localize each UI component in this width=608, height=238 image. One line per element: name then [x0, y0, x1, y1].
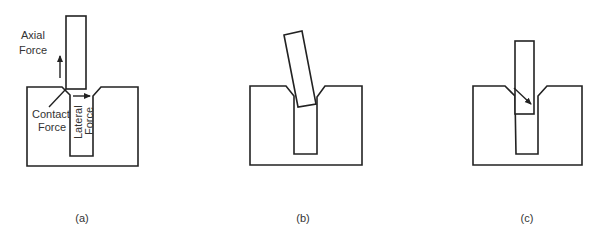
tilted-peg — [284, 31, 316, 107]
peg — [515, 41, 534, 114]
caption-c: (c) — [521, 212, 534, 224]
peg-in-hole-diagram: Axial Force Contact Force Lateral Force … — [0, 0, 608, 238]
caption-a: (a) — [75, 212, 88, 224]
contact-force-arrow — [49, 89, 66, 107]
lateral-force-label: Force — [83, 107, 95, 135]
panel-c — [473, 41, 582, 165]
panel-b — [250, 31, 362, 165]
caption-b: (b) — [296, 212, 309, 224]
peg — [66, 16, 86, 89]
axial-force-label: Axial Force — [19, 29, 48, 56]
contact-force-label: Contact Force — [32, 108, 73, 133]
panel-a: Axial Force Contact Force Lateral Force — [19, 16, 138, 166]
